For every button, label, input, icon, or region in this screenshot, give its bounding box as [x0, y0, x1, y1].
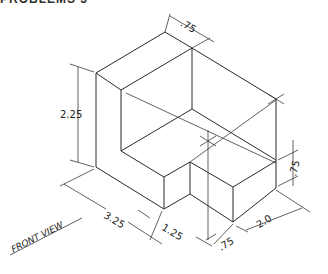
- front-view-text: FRONT VIEW: [9, 219, 65, 254]
- dimension-length: 3.25: [60, 169, 162, 244]
- dimension-height: 2.25: [60, 64, 94, 167]
- dimension-step-height: .75: [278, 140, 302, 186]
- object-edges: [96, 32, 284, 240]
- dim-label-step-width: .75: [216, 235, 235, 253]
- front-view-label: FRONT VIEW: [9, 218, 82, 255]
- dimension-notch: 1.25: [138, 210, 212, 246]
- dimension-top-thickness: .75: [165, 14, 214, 48]
- dimension-step-width: .75: [206, 224, 236, 253]
- dim-label-top-thickness: .75: [179, 17, 198, 34]
- dim-label-step-height: .75: [287, 159, 302, 177]
- dim-label-length: 3.25: [102, 210, 127, 231]
- dim-label-depth: 2.0: [254, 213, 273, 231]
- isometric-drawing: 2.25 .75 .75 3.25 1.25 .75 2.0: [0, 0, 328, 274]
- dim-label-height: 2.25: [60, 109, 82, 120]
- dim-label-notch: 1.25: [160, 222, 185, 243]
